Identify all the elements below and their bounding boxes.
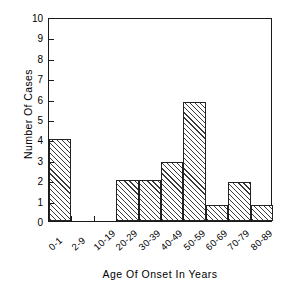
- y-axis-tick-label: 5: [23, 116, 43, 126]
- bar-50-59: [183, 102, 205, 221]
- x-axis-tick-label: 80-89: [249, 228, 275, 252]
- y-axis-tick-label: 9: [23, 34, 43, 44]
- x-axis-tick-mark: [161, 216, 162, 221]
- y-axis-tick-label: 8: [23, 55, 43, 65]
- y-axis-tick-mark: [49, 80, 54, 81]
- y-axis-tick-mark: [49, 162, 54, 163]
- y-axis-tick-label: 1: [23, 198, 43, 208]
- y-axis-tick-mark: [49, 141, 54, 142]
- y-axis-tick-label: 0: [23, 218, 43, 228]
- x-axis-tick-mark: [116, 216, 117, 221]
- x-axis-tick-label: 70-79: [226, 228, 252, 252]
- y-axis-tick-mark: [49, 39, 54, 40]
- y-axis-tick-label: 10: [23, 14, 43, 24]
- y-axis-tick-mark: [49, 60, 54, 61]
- bar-0-1: [49, 139, 71, 221]
- x-axis-tick-label: 10-19: [92, 228, 118, 252]
- x-axis-tick-mark: [94, 216, 95, 221]
- x-axis-tick-label: 0-1: [47, 235, 64, 252]
- y-axis-tick-label: 2: [23, 177, 43, 187]
- y-axis-tick-label: 3: [23, 157, 43, 167]
- x-axis-tick-label: 40-49: [159, 228, 185, 252]
- x-axis-tick-mark: [228, 216, 229, 221]
- x-axis-tick-label: 60-69: [204, 228, 230, 252]
- x-axis-tick-mark: [206, 216, 207, 221]
- plot-inner: [49, 19, 271, 221]
- y-axis-tick-mark: [49, 203, 54, 204]
- y-axis-tick-mark: [49, 182, 54, 183]
- x-axis-tick-label: 50-59: [182, 228, 208, 252]
- x-axis-tick-label: 30-39: [137, 228, 163, 252]
- y-axis-tick-mark: [49, 121, 54, 122]
- bar-70-79: [228, 182, 250, 221]
- plot-area: 0123456789100-12-910-1920-2930-3940-4950…: [48, 18, 272, 222]
- bar-20-29: [116, 180, 138, 221]
- y-axis-tick-mark: [49, 101, 54, 102]
- x-axis-tick-mark: [71, 216, 72, 221]
- y-axis-tick-label: 7: [23, 75, 43, 85]
- y-axis-tick-label: 4: [23, 136, 43, 146]
- bar-30-39: [139, 180, 161, 221]
- bar-40-49: [161, 162, 183, 221]
- x-axis-tick-mark: [183, 216, 184, 221]
- x-axis-tick-mark: [139, 216, 140, 221]
- histogram-figure: Number Of Cases 0123456789100-12-910-192…: [0, 0, 290, 288]
- x-axis-tick-label: 2-9: [70, 235, 87, 252]
- bar-60-69: [206, 205, 228, 221]
- x-axis-tick-label: 20-29: [114, 228, 140, 252]
- y-axis-tick-label: 6: [23, 96, 43, 106]
- bar-80-89: [251, 205, 273, 221]
- x-axis-title: Age Of Onset In Years: [48, 268, 272, 280]
- x-axis-tick-mark: [251, 216, 252, 221]
